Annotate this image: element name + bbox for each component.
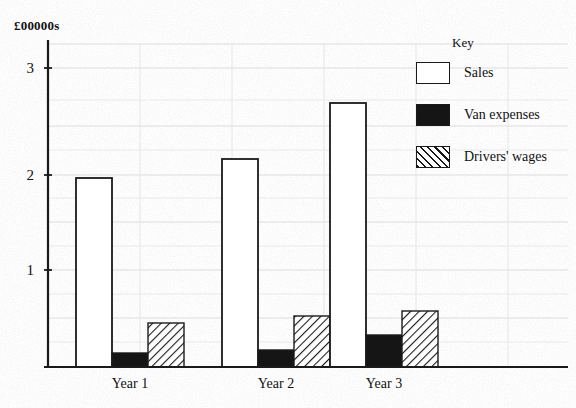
bar-group-year-1 (76, 178, 184, 367)
x-tick-label-year-1: Year 1 (70, 377, 190, 391)
legend-label-sales: Sales (464, 66, 494, 80)
y-axis-title: £00000s (14, 18, 59, 34)
legend-item-drivers-wages: Drivers' wages (416, 136, 572, 178)
legend-item-sales: Sales (416, 52, 572, 94)
legend-label-drivers-wages: Drivers' wages (464, 150, 547, 164)
y-tick-label-1: 1 (8, 263, 34, 278)
legend-title: Key (452, 36, 572, 49)
y-tick-label-2: 2 (8, 168, 34, 183)
bar-sales-year-3 (330, 103, 366, 367)
bar-drivers-wages-year-3 (402, 311, 438, 367)
solid-black-box-icon (416, 104, 450, 126)
legend-item-van-expenses: Van expenses (416, 94, 572, 136)
x-tick-label-year-3: Year 3 (324, 377, 444, 391)
bar-van-expenses-year-1 (112, 353, 148, 367)
legend: Key Sales Van expenses Drivers' wages (416, 36, 572, 178)
bar-drivers-wages-year-2 (294, 316, 330, 367)
hollow-box-icon (416, 62, 450, 84)
bar-drivers-wages-year-1 (148, 323, 184, 367)
bar-sales-year-2 (222, 159, 258, 367)
hatched-box-icon (416, 146, 450, 168)
bar-van-expenses-year-3 (366, 335, 402, 367)
x-tick-label-year-2: Year 2 (216, 377, 336, 391)
bar-van-expenses-year-2 (258, 350, 294, 367)
y-tick-label-3: 3 (8, 61, 34, 76)
bar-sales-year-1 (76, 178, 112, 367)
bar-chart: £00000s 3 2 1 Year 1 Year 2 Year 3 Key S… (0, 0, 576, 408)
bar-group-year-2 (222, 159, 330, 367)
legend-label-van-expenses: Van expenses (464, 108, 540, 122)
